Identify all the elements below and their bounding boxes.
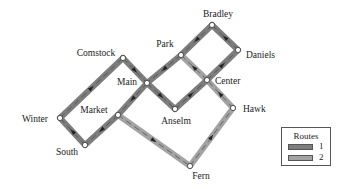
route-1-swatch [288,144,313,150]
legend-item-route-1: 1 [288,143,324,150]
station-label-fern: Fern [192,171,210,181]
station-label-daniels: Daniels [246,50,275,60]
station-label-center: Center [215,76,241,86]
station-label-park: Park [156,39,174,49]
station-anselm [172,106,177,111]
station-bradley [209,22,214,27]
station-winter [57,115,62,120]
station-label-bradley: Bradley [203,9,233,19]
station-market [115,112,120,117]
station-main [144,80,149,85]
station-comstock [120,55,125,60]
station-label-south: South [56,147,78,157]
legend-item-route-2: 2 [288,154,324,161]
station-fern [187,163,192,168]
station-park [178,52,183,57]
legend-label-route-2: 2 [319,154,324,161]
station-label-main: Main [117,77,137,87]
legend-label-route-1: 1 [319,143,324,150]
station-label-hawk: Hawk [243,104,266,114]
station-center [204,77,209,82]
station-hawk [230,105,235,110]
station-label-anselm: Anselm [161,116,191,126]
station-daniels [235,47,240,52]
route-2-swatch [288,155,313,161]
legend: Routes 1 2 [281,127,331,166]
station-south [82,142,87,147]
legend-title: Routes [282,131,330,141]
station-label-market: Market [80,105,108,115]
station-label-winter: Winter [22,114,49,124]
station-label-comstock: Comstock [77,48,116,58]
